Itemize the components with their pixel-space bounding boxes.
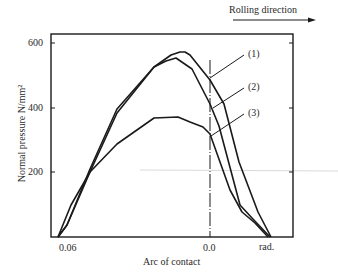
y-axis-title: Normal pressure N/mm² (16, 79, 27, 189)
rolling-direction-label: Rolling direction (229, 4, 297, 15)
curve-2 (58, 58, 270, 237)
rolling-direction-arrow-icon (233, 18, 316, 23)
x-tick-0.06: 0.06 (59, 242, 77, 253)
x-axis-title: Arc of contact (143, 256, 200, 267)
y-tick-600: 600 (28, 37, 43, 48)
callout-leaders (210, 55, 244, 136)
callout-1-label: (1) (248, 48, 260, 59)
curve-1 (58, 52, 271, 237)
x-unit-label: rad. (259, 241, 274, 252)
curves (58, 52, 271, 237)
scan-artifact-line (140, 170, 338, 171)
x-tick-0.0: 0.0 (203, 242, 216, 253)
callout-3-label: (3) (248, 107, 260, 118)
callout-2-label: (2) (248, 81, 260, 92)
y-tick-200: 200 (28, 166, 43, 177)
curve-3 (58, 117, 268, 237)
y-tick-400: 400 (28, 102, 43, 113)
chart-canvas (0, 0, 338, 272)
